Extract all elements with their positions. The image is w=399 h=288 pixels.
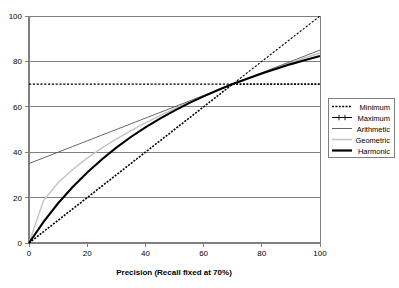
y-tick-label: 100 [9,12,23,21]
legend-label-minimum: Minimum [360,103,390,112]
x-tick-label: 60 [199,249,208,258]
x-tick-label: 80 [257,249,266,258]
x-tick-marks [29,243,320,247]
x-tick-label: 0 [27,249,32,258]
y-tick-label: 60 [13,103,22,112]
y-tick-labels: 100 80 60 40 20 0 [9,12,23,248]
x-tick-label: 40 [141,249,150,258]
averaging-functions-chart: 100 80 60 40 20 0 0 20 40 60 80 100 Prec… [0,0,399,288]
x-tick-labels: 0 20 40 60 80 100 [27,249,327,258]
chart-legend[interactable]: Minimum Maximum Arithmetic Geometric Har… [328,98,394,157]
legend-label-arithmetic: Arithmetic [357,125,391,134]
x-tick-label: 100 [313,249,327,258]
x-tick-label: 20 [83,249,92,258]
y-tick-label: 20 [13,194,22,203]
legend-label-geometric: Geometric [355,136,390,145]
x-axis-title: Precision (Recall fixed at 70%) [116,268,232,277]
y-tick-label: 0 [18,239,23,248]
legend-label-maximum: Maximum [357,114,390,123]
legend-label-harmonic: Harmonic [358,147,390,156]
chart-container: 100 80 60 40 20 0 0 20 40 60 80 100 Prec… [0,0,399,288]
y-tick-label: 40 [13,148,22,157]
y-tick-label: 80 [13,57,22,66]
